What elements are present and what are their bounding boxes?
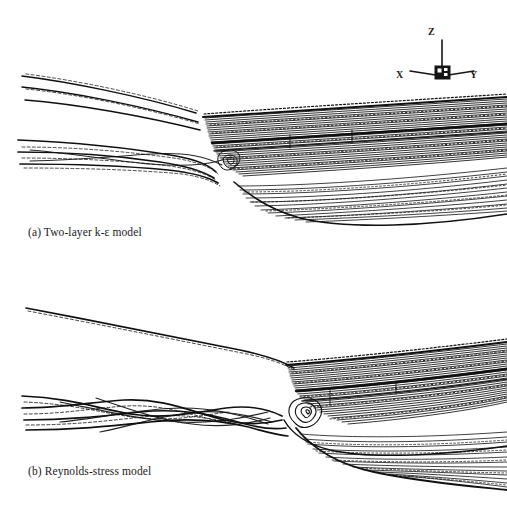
separation-line-b bbox=[284, 420, 507, 455]
axis-label-y: Y bbox=[470, 69, 477, 80]
figure-root: (a) Two-layer k-ε model Z X Y bbox=[0, 0, 507, 525]
dense-band-bundle-a bbox=[205, 99, 507, 176]
upper-streamline-texture-b bbox=[28, 311, 294, 370]
axis-label-z: Z bbox=[428, 26, 435, 37]
axis-label-x: X bbox=[396, 69, 403, 80]
streamline-plot-b bbox=[0, 262, 507, 524]
panel-b-caption: (b) Reynolds-stress model bbox=[28, 465, 151, 477]
upper-streamline-b bbox=[26, 308, 294, 368]
coordinate-axes-indicator: Z X Y bbox=[396, 26, 488, 92]
panel-a: (a) Two-layer k-ε model Z X Y bbox=[0, 0, 507, 262]
vortex-focus-b bbox=[289, 398, 322, 428]
panel-b: (b) Reynolds-stress model bbox=[0, 262, 507, 525]
lower-lobe-b bbox=[300, 432, 507, 487]
panel-a-caption: (a) Two-layer k-ε model bbox=[28, 226, 142, 238]
incoming-streamline-group-a bbox=[22, 76, 200, 130]
incoming-texture-a bbox=[26, 74, 200, 124]
origin-cube bbox=[435, 66, 450, 79]
body-upper-edge-texture-b bbox=[287, 339, 507, 362]
